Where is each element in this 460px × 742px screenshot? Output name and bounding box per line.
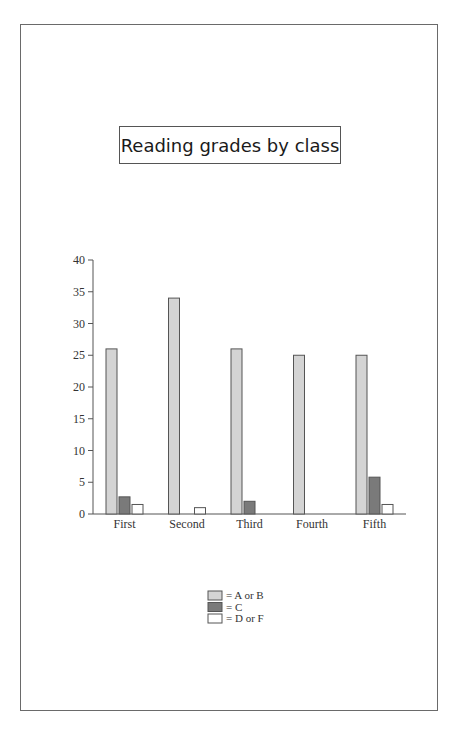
y-tick-label: 20 [73,380,85,394]
bar-fifth-series-1 [356,355,367,514]
x-tick-label: Fifth [363,517,386,531]
bar-third-series-2 [244,501,255,514]
bar-third-series-1 [231,349,242,514]
x-tick-label: Fourth [296,517,328,531]
x-tick-label: First [113,517,136,531]
legend-swatch [208,614,222,623]
x-tick-label: Third [236,517,263,531]
bar-fourth-series-1 [294,355,305,514]
y-tick-label: 15 [73,412,85,426]
bar-first-series-2 [119,497,130,514]
bar-first-series-1 [106,349,117,514]
legend-label: = A or B [226,589,264,601]
bar-chart: 0510152025303540FirstSecondThirdFourthFi… [0,0,460,742]
y-tick-label: 0 [79,507,85,521]
y-tick-label: 40 [73,253,85,267]
y-tick-label: 5 [79,475,85,489]
x-tick-label: Second [169,517,204,531]
bar-fifth-series-3 [382,504,393,514]
bar-second-series-3 [195,508,206,514]
legend-label: = D or F [226,612,264,624]
bar-second-series-1 [169,298,180,514]
bar-first-series-3 [132,504,143,514]
bar-fifth-series-2 [369,477,380,514]
y-tick-label: 35 [73,285,85,299]
y-tick-label: 10 [73,444,85,458]
legend-swatch [208,591,222,600]
legend-label: = C [226,601,242,613]
legend-swatch [208,603,222,612]
y-tick-label: 30 [73,317,85,331]
y-tick-label: 25 [73,348,85,362]
